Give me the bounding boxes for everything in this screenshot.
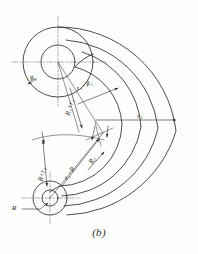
drawing-canvas [0, 0, 198, 254]
arc-bottom-fillet [50, 186, 60, 192]
construction-tick-a [86, 128, 113, 140]
figure-container: R₁ r₁−R₁ R₁+r₂ r₁ R+r₂ r₁−R R₂ R (b) [0, 0, 198, 254]
dimension-arrow-r1-minus-R1 [78, 88, 118, 104]
figure-caption: (b) [0, 226, 198, 238]
label-overall-radius: r₁ [137, 112, 143, 120]
arc-second [64, 40, 158, 206]
tick-sweep-far-right [107, 126, 108, 137]
label-lower-outer-radius: R [12, 205, 16, 212]
arc-third [62, 52, 141, 196]
arc-top-fillet [75, 54, 93, 67]
